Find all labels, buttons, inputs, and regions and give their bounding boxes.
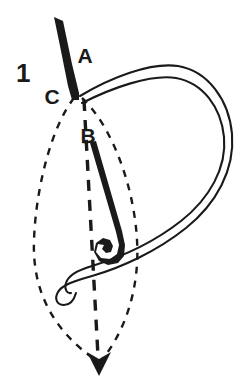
label-c: C [44,85,59,108]
label-b: B [80,124,95,147]
figure-background [0,0,240,386]
label-a: A [77,44,92,67]
figure-number: 1 [16,58,30,88]
stitch-diagram-illustration: A B C 1 [0,0,240,386]
figure-container: A B C 1 [0,0,240,386]
